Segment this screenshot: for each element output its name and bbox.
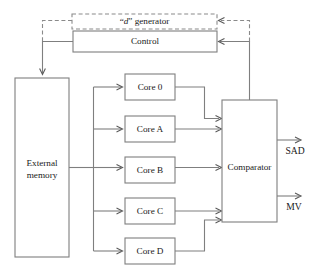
block-external-memory-label-line2: memory bbox=[27, 170, 58, 180]
block-diagram-figure: “d” generator Control External memory Co… bbox=[0, 0, 314, 277]
block-external-memory-label-line1: External bbox=[26, 158, 58, 168]
block-core-d-label: Core D bbox=[137, 246, 164, 256]
wire-comparator-to-control bbox=[220, 42, 250, 101]
diagram-canvas: “d” generator Control External memory Co… bbox=[0, 0, 314, 277]
wire-core-d-to-comparator bbox=[175, 220, 219, 251]
output-label-mv: MV bbox=[286, 201, 302, 212]
block-control-label: Control bbox=[131, 36, 160, 46]
output-label-sad: SAD bbox=[285, 145, 304, 156]
block-comparator-label: Comparator bbox=[228, 162, 272, 172]
block-d-generator-label: “d” generator bbox=[120, 16, 170, 26]
block-core-0-label: Core 0 bbox=[138, 82, 163, 92]
wire-comparator-to-d-generator bbox=[221, 21, 250, 42]
block-core-a-label: Core A bbox=[137, 124, 164, 134]
wire-d-generator-to-memory-bus bbox=[43, 21, 73, 42]
wire-core-0-to-comparator bbox=[175, 87, 219, 119]
wire-control-to-external-memory bbox=[43, 42, 74, 74]
block-core-b-label: Core B bbox=[137, 165, 163, 175]
block-core-c-label: Core C bbox=[137, 206, 163, 216]
